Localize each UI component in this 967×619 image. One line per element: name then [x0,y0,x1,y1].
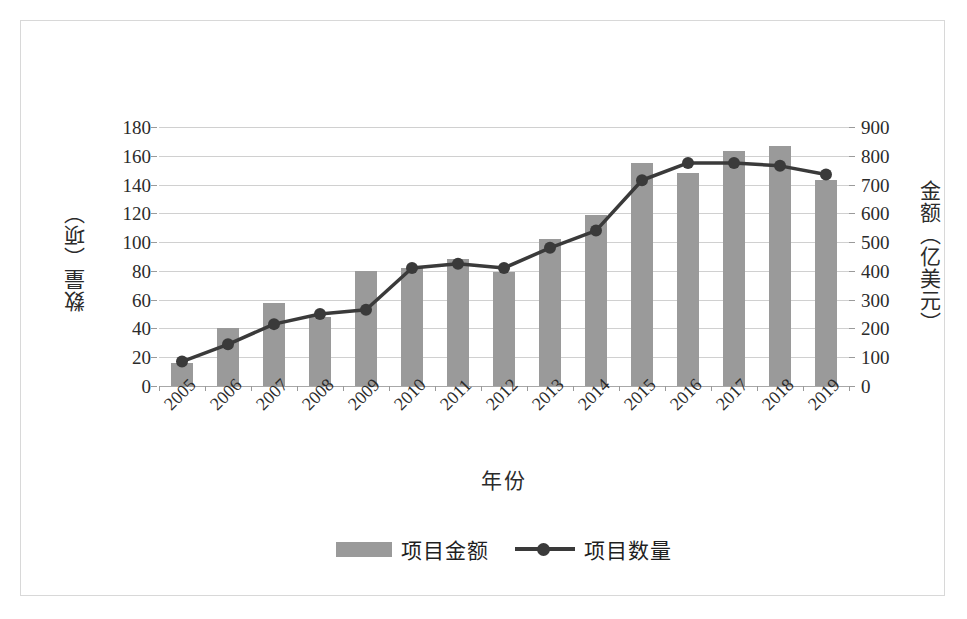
line-marker [176,356,188,368]
x-axis-tick-mark [619,386,620,391]
left-axis-tick-label: 80 [132,261,151,280]
x-axis-ticks: 2005200620072008200920102011201220132014… [159,386,849,456]
right-axis-tick-label: 500 [861,233,890,252]
x-axis-tick-mark [757,386,758,391]
left-axis-tick-label: 160 [123,146,152,165]
right-axis-tick-mark [849,300,855,301]
x-axis-tick-mark [849,386,850,391]
right-axis-tick-mark [849,127,855,128]
left-axis-tick-label: 0 [142,377,152,396]
left-axis-tick-mark [151,357,157,358]
plot-area [159,127,849,386]
legend-bar-swatch [336,542,392,557]
left-axis-tick-label: 180 [123,118,152,137]
left-axis-title: 数量（项） [61,127,91,386]
line-series [159,127,849,386]
right-axis-tick-label: 400 [861,261,890,280]
left-axis-tick-mark [151,300,157,301]
right-axis-tick-label: 600 [861,204,890,223]
line-marker [452,258,464,270]
x-axis-tick-mark [389,386,390,391]
line-marker [820,168,832,180]
left-axis-tick-label: 100 [123,233,152,252]
left-axis-tick-mark [151,271,157,272]
left-axis-tick-mark [151,127,157,128]
left-axis-ticks: 020406080100120140160180 [99,127,151,386]
right-axis-tick-mark [849,357,855,358]
right-axis-tick-label: 100 [861,348,890,367]
line-marker [360,304,372,316]
x-axis-title: 年份 [159,464,849,494]
legend-line-swatch [515,541,575,557]
left-axis-tick-label: 60 [132,290,151,309]
chart-figure: 数量（项） 金额（亿美元） 020406080100120140160180 0… [20,20,945,596]
line-marker [406,262,418,274]
left-axis-title-text: 数量（项） [61,202,91,312]
legend-entry-bar: 项目金额 [336,534,489,564]
right-axis-tick-label: 800 [861,146,890,165]
line-marker [590,225,602,237]
legend-line-marker-icon [537,543,550,556]
x-axis-tick-mark [435,386,436,391]
left-axis-tick-mark [151,242,157,243]
right-axis-title: 金额（亿美元） [914,127,944,386]
x-axis-tick-mark [251,386,252,391]
x-axis-tick-mark [665,386,666,391]
line-marker [728,157,740,169]
legend-line-label: 项目数量 [584,534,672,564]
right-axis-tick-label: 700 [861,175,890,194]
right-axis-ticks: 0100200300400500600700800900 [861,127,913,386]
line-marker [636,174,648,186]
x-axis-tick-mark [481,386,482,391]
left-axis-tick-mark [151,386,157,387]
left-axis-tick-label: 20 [132,348,151,367]
line-marker [774,160,786,172]
right-axis-tick-mark [849,242,855,243]
line-marker [222,338,234,350]
line-marker [544,242,556,254]
left-axis-tick-mark [151,213,157,214]
x-axis-tick-mark [297,386,298,391]
right-axis-tick-label: 300 [861,290,890,309]
right-axis-tick-label: 200 [861,319,890,338]
line-marker [498,262,510,274]
line-marker [314,308,326,320]
left-axis-tick-label: 120 [123,204,152,223]
right-axis-tick-mark [849,185,855,186]
x-axis-tick-mark [159,386,160,391]
right-axis-tick-mark [849,156,855,157]
x-axis-tick-mark [527,386,528,391]
legend-entry-line: 项目数量 [515,534,672,564]
left-axis-tick-mark [151,185,157,186]
x-axis-tick-mark [803,386,804,391]
right-axis-tick-mark [849,213,855,214]
left-axis-tick-label: 140 [123,175,152,194]
left-axis-tick-label: 40 [132,319,151,338]
x-axis-tick-mark [573,386,574,391]
line-marker [268,318,280,330]
left-axis-tick-mark [151,156,157,157]
x-axis-tick-mark [343,386,344,391]
right-axis-title-text: 金额（亿美元） [914,180,944,334]
right-axis-tick-mark [849,328,855,329]
line-marker [682,157,694,169]
right-axis-tick-label: 0 [861,377,871,396]
chart-legend: 项目金额 项目数量 [159,534,849,564]
legend-bar-label: 项目金额 [401,534,489,564]
x-axis-tick-mark [205,386,206,391]
left-axis-tick-mark [151,328,157,329]
right-axis-tick-label: 900 [861,118,890,137]
right-axis-tick-mark [849,271,855,272]
x-axis-tick-mark [711,386,712,391]
